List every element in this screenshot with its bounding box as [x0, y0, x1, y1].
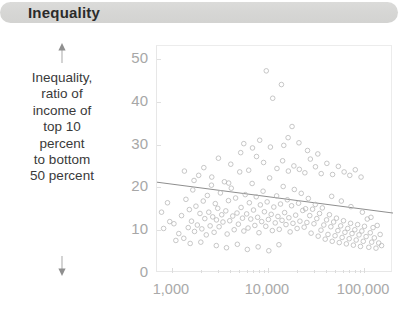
y-axis-caption-line: to bottom: [0, 152, 124, 168]
y-axis-caption-line: 50 percent: [0, 168, 124, 184]
y-axis-caption-line: top 10: [0, 119, 124, 135]
y-axis-caption-line: ratio of: [0, 86, 124, 102]
scatter-plot-area: [156, 45, 392, 272]
page-title: Inequality: [28, 3, 100, 22]
y-axis-tick-label: 10: [112, 221, 148, 236]
arrow-down-icon: [53, 255, 71, 277]
arrow-up-icon: [53, 42, 71, 64]
x-axis-tick-label: 10,000: [227, 282, 307, 297]
y-axis-caption-line: income of: [0, 103, 124, 119]
y-axis-caption-line: Inequality,: [0, 70, 124, 86]
y-axis-tick-label: 0: [112, 264, 148, 279]
y-axis-tick-label: 20: [112, 178, 148, 193]
y-axis-tick-label: 40: [112, 93, 148, 108]
x-axis-tick-label: 100,000: [323, 282, 403, 297]
x-axis-tick-label: 1,000: [131, 282, 211, 297]
scatter-plot-canvas: [157, 46, 393, 273]
y-axis-tick-label: 50: [112, 50, 148, 65]
y-axis-caption: Inequality, ratio of income of top 10 pe…: [0, 70, 124, 185]
y-axis-caption-line: percent: [0, 136, 124, 152]
y-axis-tick-label: 30: [112, 136, 148, 151]
